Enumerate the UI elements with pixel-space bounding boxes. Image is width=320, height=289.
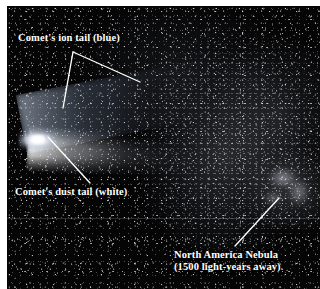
leader-line-nebula — [235, 198, 279, 246]
astrophoto-figure: Comet's ion tail (blue) Comet's dust tai… — [0, 0, 320, 289]
label-comet-ion-tail: Comet's ion tail (blue) — [18, 32, 120, 44]
label-nebula-distance: (1500 light-years away) — [174, 261, 281, 273]
label-north-america-nebula: North America Nebula (1500 light-years a… — [174, 249, 281, 272]
label-comet-dust-tail: Comet's dust tail (white) — [15, 186, 127, 198]
leader-line-dust-tail — [48, 137, 90, 183]
leader-line-ion-tail-right — [73, 52, 140, 82]
label-nebula-name: North America Nebula — [174, 249, 278, 260]
leader-line-ion-tail-left — [63, 52, 73, 108]
